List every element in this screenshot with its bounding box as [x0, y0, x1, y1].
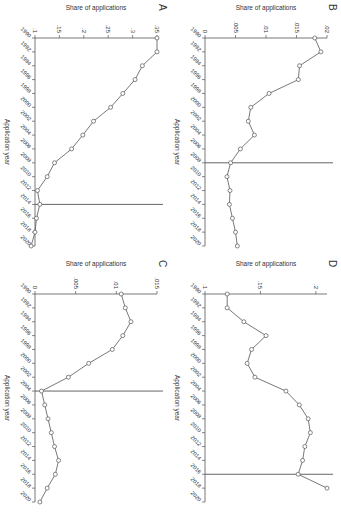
svg-text:.005: .005	[73, 277, 79, 289]
svg-text:2000: 2000	[190, 351, 203, 364]
svg-text:2020: 2020	[190, 490, 203, 503]
svg-text:Application year: Application year	[3, 375, 11, 422]
svg-text:D: D	[327, 260, 338, 267]
svg-text:2010: 2010	[190, 164, 203, 177]
svg-text:C: C	[157, 260, 168, 267]
svg-text:2010: 2010	[20, 420, 33, 433]
svg-text:A: A	[157, 4, 168, 11]
svg-text:2020: 2020	[20, 490, 33, 503]
chart-b: 0.005.01.015.021990199219941996199820002…	[171, 0, 341, 256]
svg-text:2012: 2012	[190, 178, 203, 191]
svg-text:2016: 2016	[190, 462, 203, 475]
svg-text:2012: 2012	[20, 434, 33, 447]
svg-text:1994: 1994	[190, 310, 203, 323]
chart-d: .1.15.2199019921994199619982000200220042…	[171, 256, 341, 512]
svg-text:2002: 2002	[20, 109, 33, 122]
svg-text:Share of applications: Share of applications	[66, 4, 127, 12]
panel-a: .1.15.2.25.3.351990199219941996199820002…	[1, 0, 171, 256]
svg-text:1994: 1994	[20, 310, 33, 323]
svg-text:2010: 2010	[190, 420, 203, 433]
svg-text:2016: 2016	[20, 206, 33, 219]
chart-a: .1.15.2.25.3.351990199219941996199820002…	[1, 0, 171, 256]
svg-text:1990: 1990	[190, 282, 203, 295]
svg-text:0: 0	[202, 30, 208, 34]
svg-text:2018: 2018	[190, 476, 203, 489]
svg-text:2004: 2004	[20, 123, 33, 136]
svg-text:.1: .1	[32, 28, 38, 34]
svg-text:2020: 2020	[190, 234, 203, 247]
svg-text:Share of applications: Share of applications	[66, 260, 127, 268]
svg-text:1998: 1998	[20, 337, 33, 350]
svg-text:1996: 1996	[20, 323, 33, 336]
svg-text:Application year: Application year	[173, 119, 181, 166]
svg-text:Share of applications: Share of applications	[236, 4, 297, 12]
svg-text:1998: 1998	[190, 337, 203, 350]
svg-text:2014: 2014	[190, 192, 203, 205]
svg-text:1992: 1992	[190, 40, 203, 53]
svg-text:1990: 1990	[190, 26, 203, 39]
svg-text:1998: 1998	[190, 81, 203, 94]
svg-text:.02: .02	[324, 25, 330, 34]
svg-text:.15: .15	[257, 281, 263, 290]
svg-text:2000: 2000	[20, 95, 33, 108]
svg-text:2016: 2016	[20, 462, 33, 475]
svg-text:2002: 2002	[190, 365, 203, 378]
svg-text:2012: 2012	[190, 434, 203, 447]
panel-d: .1.15.2199019921994199619982000200220042…	[171, 256, 341, 512]
svg-text:1998: 1998	[20, 81, 33, 94]
svg-text:2008: 2008	[190, 407, 203, 420]
svg-text:1992: 1992	[190, 296, 203, 309]
svg-text:.1: .1	[202, 284, 208, 290]
svg-text:2008: 2008	[20, 407, 33, 420]
svg-text:2016: 2016	[190, 206, 203, 219]
svg-text:2014: 2014	[190, 448, 203, 461]
svg-text:2012: 2012	[20, 178, 33, 191]
svg-text:2008: 2008	[190, 151, 203, 164]
svg-text:.01: .01	[263, 25, 269, 34]
svg-text:2018: 2018	[20, 220, 33, 233]
svg-text:2014: 2014	[20, 192, 33, 205]
svg-text:Application year: Application year	[173, 375, 181, 422]
svg-text:2008: 2008	[20, 151, 33, 164]
svg-text:.01: .01	[113, 281, 119, 290]
svg-text:2004: 2004	[190, 379, 203, 392]
svg-text:2006: 2006	[190, 137, 203, 150]
svg-text:2000: 2000	[20, 351, 33, 364]
svg-text:2006: 2006	[190, 393, 203, 406]
svg-text:2000: 2000	[190, 95, 203, 108]
svg-text:2004: 2004	[190, 123, 203, 136]
svg-text:2014: 2014	[20, 448, 33, 461]
svg-text:.015: .015	[294, 21, 300, 33]
panel-c: 0.005.01.0151990199219941996199820002002…	[1, 256, 171, 512]
svg-text:2010: 2010	[20, 164, 33, 177]
svg-text:2004: 2004	[20, 379, 33, 392]
svg-text:.2: .2	[313, 284, 319, 290]
svg-text:1994: 1994	[20, 54, 33, 67]
figure: .1.15.2.25.3.351990199219941996199820002…	[0, 0, 341, 513]
svg-text:1992: 1992	[20, 40, 33, 53]
svg-text:1992: 1992	[20, 296, 33, 309]
svg-text:0: 0	[32, 286, 38, 290]
svg-text:1990: 1990	[20, 26, 33, 39]
svg-text:.3: .3	[130, 28, 136, 34]
svg-text:.015: .015	[154, 277, 160, 289]
svg-text:1996: 1996	[20, 67, 33, 80]
svg-text:.25: .25	[105, 25, 111, 34]
svg-text:2002: 2002	[190, 109, 203, 122]
svg-text:2002: 2002	[20, 365, 33, 378]
svg-text:2006: 2006	[20, 137, 33, 150]
chart-c: 0.005.01.0151990199219941996199820002002…	[1, 256, 171, 512]
svg-text:.005: .005	[233, 21, 239, 33]
svg-text:.2: .2	[81, 28, 87, 34]
svg-text:.35: .35	[154, 25, 160, 34]
svg-text:Share of applications: Share of applications	[236, 260, 297, 268]
svg-text:2018: 2018	[20, 476, 33, 489]
svg-text:1996: 1996	[190, 323, 203, 336]
svg-text:2018: 2018	[190, 220, 203, 233]
svg-text:Application year: Application year	[3, 119, 11, 166]
svg-text:1996: 1996	[190, 67, 203, 80]
svg-text:2006: 2006	[20, 393, 33, 406]
svg-text:1990: 1990	[20, 282, 33, 295]
svg-text:B: B	[327, 4, 338, 11]
svg-text:1994: 1994	[190, 54, 203, 67]
